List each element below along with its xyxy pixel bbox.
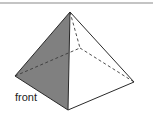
pyramid-diagram: front [0,0,153,125]
front-label: front [15,91,37,103]
edge-front-right [68,82,134,110]
edge-apex-right [70,12,134,82]
